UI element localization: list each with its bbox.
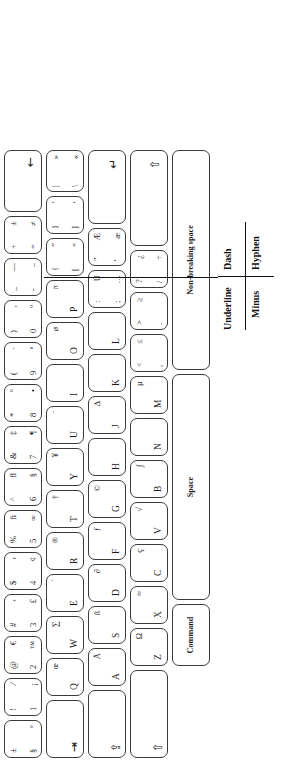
keyboard-diagram-stage: ± § ° ! 1 ⁄ ¡ @ 2 € ™ # 3 ‹ £ $ 4 › ¢ <box>0 0 301 762</box>
annotation-label-hyphen: Hyphen <box>250 236 261 270</box>
annotation-horizontal-rule <box>245 222 246 330</box>
annotation-label-underline: Underline <box>222 287 233 330</box>
annotation-leader-line <box>44 277 218 278</box>
hyphen-key-annotation: Underline Dash Minus Hyphen <box>0 0 301 762</box>
annotation-label-minus: Minus <box>250 291 261 318</box>
annotation-label-dash: Dash <box>222 248 233 270</box>
